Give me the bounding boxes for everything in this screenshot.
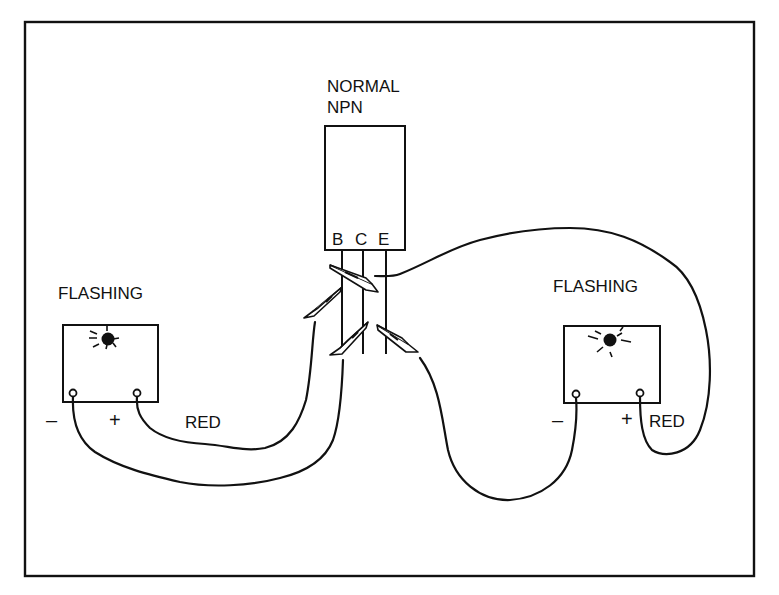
pin-label-collector: C — [355, 230, 367, 249]
pin-label-base: B — [332, 230, 343, 249]
right-red-wire-label: RED — [649, 412, 685, 431]
clip-base-icon — [330, 265, 378, 292]
transistor-label-line2: NPN — [327, 98, 363, 117]
right-minus-terminal — [573, 391, 580, 398]
left-minus-terminal — [70, 390, 77, 397]
left-plus-label: + — [109, 409, 121, 431]
clip-emitter-icon — [377, 325, 418, 352]
wire-left-plus-red — [137, 322, 315, 449]
right-flashing-module: FLASHING – + RED — [552, 277, 685, 431]
left-module-label: FLASHING — [58, 284, 143, 303]
left-minus-label: – — [46, 409, 58, 431]
right-module-label: FLASHING — [553, 277, 638, 296]
right-minus-label: – — [552, 409, 564, 431]
pin-label-emitter: E — [378, 230, 389, 249]
right-plus-label: + — [621, 408, 633, 430]
transistor-label-line1: NORMAL — [327, 77, 400, 96]
left-red-wire-label: RED — [185, 413, 221, 432]
left-plus-terminal — [134, 390, 141, 397]
clip-left-upper-icon — [304, 287, 342, 318]
npn-transistor: NORMAL NPN B C E — [325, 77, 405, 354]
right-plus-terminal — [637, 390, 644, 397]
circuit-diagram: NORMAL NPN B C E FLASHING – + RED FLASHI… — [0, 0, 779, 595]
